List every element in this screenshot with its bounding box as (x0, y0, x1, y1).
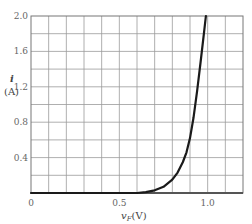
y-axis-unit: (A) (4, 86, 19, 97)
x-tick-label: 1.0 (201, 198, 216, 208)
y-tick-label: 2.0 (14, 11, 29, 21)
diode-iv-chart: 00.51.0 0.40.81.21.62.0 i (A) vF(V) (0, 0, 252, 224)
x-axis-label: vF(V) (121, 210, 147, 223)
y-axis-label: i (10, 73, 14, 84)
grid-lines (31, 16, 243, 193)
x-tick-labels: 00.51.0 (28, 198, 215, 208)
y-tick-label: 1.6 (14, 46, 29, 56)
y-tick-label: 0.8 (14, 117, 29, 127)
y-tick-label: 0.4 (14, 153, 29, 163)
x-tick-label: 0 (28, 198, 34, 208)
x-axis-label-unit: (V) (132, 210, 147, 221)
x-tick-label: 0.5 (112, 198, 127, 208)
